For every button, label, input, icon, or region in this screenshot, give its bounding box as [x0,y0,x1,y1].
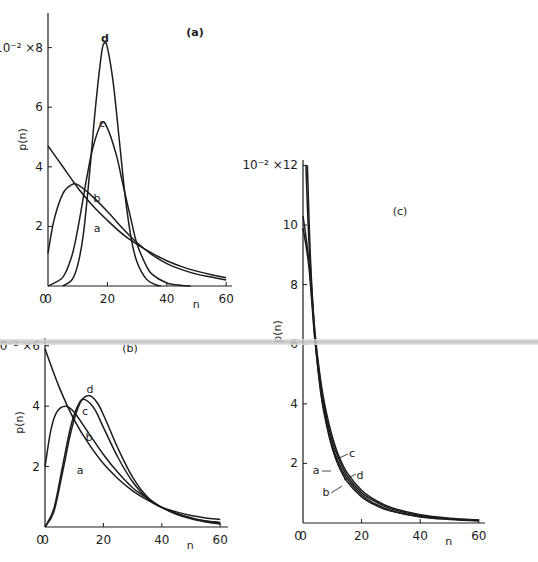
curve-label-a: a [77,464,84,477]
x-tick-label: 60 [219,292,234,306]
x-axis-label: n [187,539,194,552]
x-axis-label: n [445,535,452,548]
x-tick-label: 60 [471,529,486,543]
curve-label-b: b [323,486,330,499]
x-tick-label: 20 [100,292,115,306]
y-tick-label: 4 [290,397,298,411]
y-tick-label: 2 [35,219,43,233]
series-b-curve [303,216,479,521]
x-tick-label: 20 [354,529,369,543]
origin-label: 0 [294,529,302,543]
series-b-curve [48,183,226,280]
origin-label: 0 [36,533,44,547]
y-tick-label: 2 [32,460,40,474]
y-axis-label: p(n) [16,128,29,151]
y-tick-label: 10⁻² ×12 [242,158,298,172]
x-tick-label: 40 [154,533,169,547]
curve-label-c: c [349,447,355,460]
x-tick-label: 20 [96,533,111,547]
series-c-curve [45,399,220,527]
y-tick-label: 2 [290,456,298,470]
series-a-curve [303,228,479,521]
figure: 0204060n24610⁻² ×80p(n)(a)dcba 0204060n2… [0,0,538,562]
y-tick-label: 4 [32,399,40,413]
curve-label-d: d [87,383,94,396]
panel-a-chart: 0204060n24610⁻² ×80p(n)(a)dcba [0,13,234,311]
curve-label-leader [331,486,342,493]
curve-label-b: b [86,431,93,444]
x-tick-label: 60 [213,533,228,547]
panel-label: (c) [393,205,408,218]
series-a-curve [45,349,220,520]
curve-label-d: d [357,469,364,482]
series-a-curve [48,146,226,278]
panel-c-chart: 0204060n24681010⁻² ×120p(n)(c)cadb [242,158,486,548]
x-tick-label: 40 [159,292,174,306]
x-axis-label: n [193,298,200,311]
panel-b-chart: 0204060n2410⁻² ×60p(n)(b)dcba [0,338,228,552]
curve-label-c: c [99,117,105,130]
curve-label-b: b [94,192,101,205]
y-tick-label: 10⁻² ×8 [0,41,43,55]
curve-label-c: c [82,405,88,418]
x-tick-label: 40 [413,529,428,543]
curve-label-a: a [94,222,101,235]
curve-label-d: d [101,32,109,45]
scan-artifact-band [0,339,538,345]
origin-label: 0 [39,292,47,306]
y-axis-label: p(n) [13,411,26,434]
panel-label: (a) [186,26,203,39]
curve-label-a: a [313,464,320,477]
y-tick-label: 4 [35,160,43,174]
y-tick-label: 10 [283,218,298,232]
y-tick-label: 8 [290,278,298,292]
y-tick-label: 6 [35,100,43,114]
